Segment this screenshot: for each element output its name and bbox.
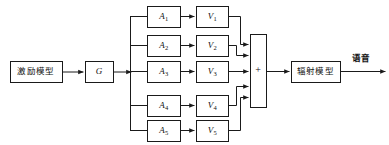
formant-amplitude-label-2: A2 (147, 41, 180, 50)
v5-sub: 5 (213, 129, 216, 136)
summer-plus-label: + (250, 65, 266, 75)
formant-resonator-label-3: V3 (196, 67, 228, 76)
a2-base: A (159, 40, 165, 50)
a5-sub: 5 (165, 129, 168, 136)
v4-sub: 4 (213, 104, 216, 111)
v3-sub: 3 (213, 70, 216, 77)
wire-v5-to-summer (229, 98, 249, 131)
wire-v2-to-summer (229, 46, 249, 56)
v1-sub: 1 (213, 15, 216, 22)
a3-sub: 3 (165, 70, 168, 77)
a1-base: A (159, 11, 165, 21)
formant-amplitude-label-1: A1 (147, 12, 180, 21)
wire-v1-to-summer (229, 17, 249, 45)
speech-output-label: 语音 (348, 54, 374, 63)
a4-base: A (159, 100, 165, 110)
radiation-model-label: 辐射模型 (291, 67, 340, 76)
a3-base: A (159, 66, 165, 76)
formant-amplitude-label-4: A4 (147, 101, 180, 110)
formant-amplitude-label-3: A3 (147, 67, 180, 76)
a5-base: A (159, 125, 165, 135)
formant-resonator-label-5: V5 (196, 126, 228, 135)
a2-sub: 2 (165, 44, 168, 51)
v2-sub: 2 (213, 44, 216, 51)
formant-resonator-label-4: V4 (196, 101, 228, 110)
formant-resonator-label-2: V2 (196, 41, 228, 50)
excitation-model-label: 激励模型 (10, 67, 62, 76)
wire-v4-to-summer (229, 87, 249, 106)
a1-sub: 1 (165, 15, 168, 22)
gain-label: G (85, 67, 113, 76)
block-diagram: 激励模型 G A1 V1 A2 V2 A3 V3 A4 V4 A5 V5 + 辐… (0, 0, 389, 145)
gain-label-text: G (96, 66, 103, 76)
formant-resonator-label-1: V1 (196, 12, 228, 21)
formant-amplitude-label-5: A5 (147, 126, 180, 135)
a4-sub: 4 (165, 104, 168, 111)
